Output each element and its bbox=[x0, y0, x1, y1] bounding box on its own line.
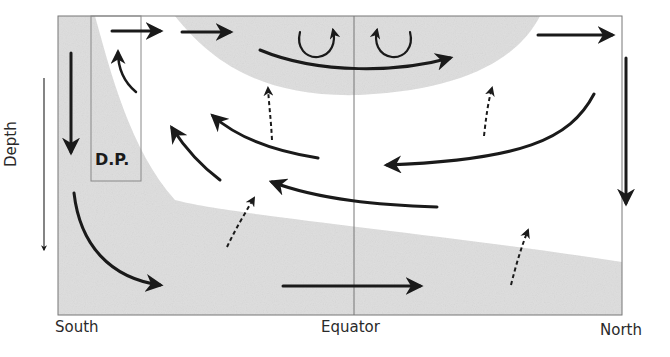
drake-passage-label: D.P. bbox=[95, 150, 129, 169]
arrow-return-4 bbox=[387, 94, 594, 165]
arrow-return-1 bbox=[172, 128, 220, 180]
arrow-mix-1 bbox=[268, 88, 272, 140]
arrow-return-2 bbox=[213, 116, 318, 158]
south-label: South bbox=[55, 318, 99, 336]
circulation-diagram bbox=[0, 0, 670, 357]
equator-label: Equator bbox=[321, 318, 380, 336]
north-label: North bbox=[600, 321, 642, 339]
depth-axis-label: Depth bbox=[2, 121, 20, 167]
arrow-upwelling-dp bbox=[118, 52, 136, 92]
upper-bowl-shading bbox=[175, 16, 540, 95]
arrow-mix-2 bbox=[484, 88, 492, 136]
